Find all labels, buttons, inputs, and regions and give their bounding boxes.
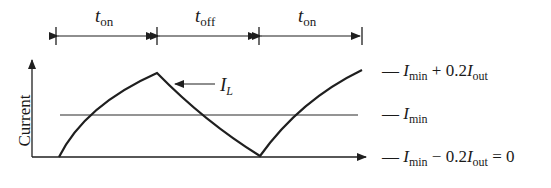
i-subscript: min: [409, 155, 428, 169]
level-label-max: — Imin + 0.2Iout: [382, 62, 488, 79]
y-axis-label: Current: [16, 91, 33, 151]
level-dash: —: [382, 104, 399, 123]
interval-label-ton-1: ton: [95, 6, 113, 25]
level-operator: + 0.2: [432, 61, 467, 80]
current-waveform-diagram: ton toff ton Current IL — Imin + 0.2Iout…: [0, 0, 551, 188]
level-dash: —: [382, 147, 399, 166]
interval-label-ton-2: ton: [298, 6, 316, 25]
t-subscript: on: [303, 14, 316, 29]
interval-label-toff: toff: [195, 6, 215, 25]
curve-label-il: IL: [220, 75, 233, 94]
i-subscript: min: [409, 112, 428, 126]
axes: [32, 60, 366, 157]
il-subscript: L: [226, 84, 233, 98]
inductor-current-curve: [59, 70, 362, 157]
iout-subscript: out: [473, 69, 488, 83]
level-dash: —: [382, 61, 399, 80]
iout-symbol: I: [467, 147, 473, 166]
iout-subscript: out: [473, 155, 488, 169]
i-subscript: min: [409, 69, 428, 83]
t-subscript: on: [100, 14, 113, 29]
level-label-min: — Imin − 0.2Iout = 0: [382, 148, 515, 165]
iout-symbol: I: [467, 61, 473, 80]
level-operator: − 0.2: [432, 147, 467, 166]
level-label-mid: — Imin: [382, 105, 428, 122]
t-subscript: off: [200, 14, 215, 29]
level-equals-zero: = 0: [488, 147, 515, 166]
